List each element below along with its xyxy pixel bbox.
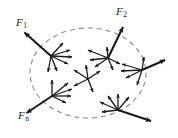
vector-fn-major <box>27 96 53 113</box>
vector-f2-internal-1 <box>88 50 108 58</box>
force-label-fn-base: F <box>18 109 25 121</box>
vector-bottom-right-internal-5 <box>118 97 129 110</box>
vector-bottom-right-internal-2 <box>102 110 118 112</box>
node-right-cluster <box>121 57 165 85</box>
body-boundary-dashed-ellipse <box>30 28 146 118</box>
vector-fn-internal-2 <box>52 83 68 96</box>
force-label-f1-base: F <box>16 16 23 28</box>
node-f1-cluster <box>25 33 73 73</box>
force-label-f1: F1 <box>16 17 26 28</box>
force-label-fn-sub: n <box>25 114 29 123</box>
force-diagram-figure: F1 F2 Fn <box>0 0 178 138</box>
vector-center-internal-1 <box>74 70 88 79</box>
vector-right-internal-1 <box>122 64 142 70</box>
node-center-cluster <box>74 65 100 92</box>
node-bottom-right-cluster <box>100 94 151 121</box>
vector-f1-major <box>25 33 52 57</box>
node-fn-cluster <box>27 80 73 113</box>
vector-fn-internal-5 <box>52 96 66 103</box>
vector-center-internal-4 <box>88 71 100 79</box>
node-f2-cluster <box>88 27 123 70</box>
force-label-f2: F2 <box>116 6 126 17</box>
force-label-fn: Fn <box>18 110 28 121</box>
vector-center-internal-5 <box>88 79 93 92</box>
vector-f1-internal-5 <box>48 56 51 72</box>
vector-center-internal-2 <box>74 79 88 86</box>
vector-fn-internal-3 <box>52 89 72 96</box>
vector-bottom-right-major <box>118 110 151 121</box>
force-label-f1-sub: 1 <box>23 21 27 30</box>
vector-f2-internal-4 <box>107 47 108 58</box>
force-label-f2-base: F <box>116 5 123 17</box>
vector-center-internal-3 <box>86 65 88 79</box>
force-label-f2-sub: 2 <box>123 10 127 19</box>
